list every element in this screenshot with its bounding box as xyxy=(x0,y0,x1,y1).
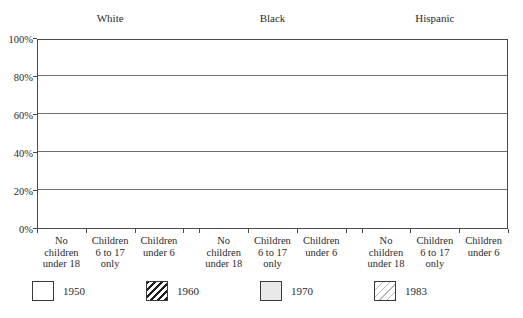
legend-swatch-1960 xyxy=(146,281,168,301)
x-axis-label-line: Children xyxy=(86,235,135,247)
x-axis-label: Nochildrenunder 18 xyxy=(362,235,411,270)
x-axis-label-line: Children xyxy=(410,235,459,247)
legend-item-1960[interactable]: 1960 xyxy=(146,281,199,301)
x-axis-label: Children6 to 17only xyxy=(410,235,459,270)
bar-group-white xyxy=(38,40,184,228)
x-axis-label-line: only xyxy=(248,258,297,270)
y-axis-tick-label: 20% xyxy=(14,186,37,197)
x-axis-label-line: No xyxy=(199,235,248,247)
legend-swatch-1950 xyxy=(32,281,54,301)
x-axis-label-line: children xyxy=(199,247,248,259)
group-title-black: Black xyxy=(199,12,345,24)
y-axis-tick-label: 100% xyxy=(9,34,38,45)
x-axis-label-line: 6 to 17 xyxy=(410,247,459,259)
bar-group-black xyxy=(200,40,346,228)
y-axis: 0%20%40%60%80%100% xyxy=(0,39,37,229)
x-axis-tick-mark xyxy=(183,229,184,233)
legend-swatch-1970 xyxy=(260,281,282,301)
x-axis-tick-mark xyxy=(135,229,136,233)
y-axis-tick-label: 40% xyxy=(14,148,37,159)
legend-label-1970: 1970 xyxy=(291,285,313,297)
group-title-white: White xyxy=(37,12,183,24)
legend-swatch-1983 xyxy=(374,281,396,301)
x-axis-tick-mark xyxy=(362,229,363,233)
x-axis-label-line: under 18 xyxy=(37,258,86,270)
x-axis-tick-mark xyxy=(410,229,411,233)
legend-label-1950: 1950 xyxy=(63,285,85,297)
group-title-hispanic: Hispanic xyxy=(362,12,508,24)
x-axis-label-line: only xyxy=(410,258,459,270)
x-axis-label-line: under 6 xyxy=(135,247,184,259)
x-axis-label-line: under 6 xyxy=(459,247,508,259)
x-axis-label: Childrenunder 6 xyxy=(135,235,184,258)
legend-item-1950[interactable]: 1950 xyxy=(32,281,85,301)
x-axis-tick-mark xyxy=(248,229,249,233)
x-axis-label-line: Children xyxy=(248,235,297,247)
x-axis-label-line: Children xyxy=(135,235,184,247)
x-axis-label-line: 6 to 17 xyxy=(86,247,135,259)
x-axis-tick-mark xyxy=(199,229,200,233)
x-axis-tick-mark xyxy=(346,229,347,233)
chart-legend: 1950196019701983 xyxy=(0,281,523,311)
x-axis-label-line: 6 to 17 xyxy=(248,247,297,259)
x-axis-label: Children6 to 17only xyxy=(248,235,297,270)
x-axis-label-line: children xyxy=(37,247,86,259)
legend-item-1983[interactable]: 1983 xyxy=(374,281,427,301)
bar-group-hispanic xyxy=(363,40,509,228)
x-axis-label-line: children xyxy=(362,247,411,259)
x-axis-label: Childrenunder 6 xyxy=(459,235,508,258)
x-axis-label-line: under 6 xyxy=(297,247,346,259)
x-axis-label: Nochildrenunder 18 xyxy=(199,235,248,270)
x-axis-label: Children6 to 17only xyxy=(86,235,135,270)
legend-item-1970[interactable]: 1970 xyxy=(260,281,313,301)
x-axis-tick-mark xyxy=(37,229,38,233)
x-axis-tick-mark xyxy=(508,229,509,233)
x-axis-tick-mark xyxy=(459,229,460,233)
x-axis-tick-mark xyxy=(86,229,87,233)
x-axis-label-line: No xyxy=(37,235,86,247)
x-axis-label: Nochildrenunder 18 xyxy=(37,235,86,270)
x-axis-label-line: under 18 xyxy=(199,258,248,270)
legend-label-1960: 1960 xyxy=(177,285,199,297)
x-axis-label-line: Children xyxy=(297,235,346,247)
x-axis-label-line: only xyxy=(86,258,135,270)
x-axis-tick-mark xyxy=(297,229,298,233)
legend-label-1983: 1983 xyxy=(405,285,427,297)
x-axis-label: Childrenunder 6 xyxy=(297,235,346,258)
x-axis-label-line: Children xyxy=(459,235,508,247)
y-axis-tick-label: 0% xyxy=(19,224,37,235)
x-axis-label-line: No xyxy=(362,235,411,247)
y-axis-tick-label: 80% xyxy=(14,72,37,83)
plot-area xyxy=(37,39,508,229)
x-axis-label-line: under 18 xyxy=(362,258,411,270)
y-axis-tick-label: 60% xyxy=(14,110,37,121)
chart-container: WhiteBlackHispanic 0%20%40%60%80%100% No… xyxy=(0,0,523,318)
